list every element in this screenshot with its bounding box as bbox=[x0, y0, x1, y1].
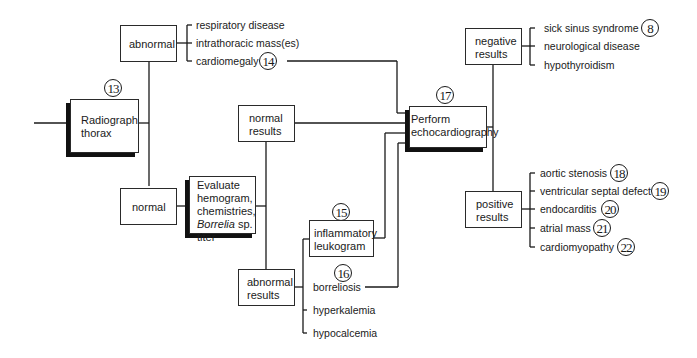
negative-line2: results bbox=[475, 48, 521, 61]
evaluate-line2: hemogram, bbox=[197, 192, 255, 205]
normal-label: normal bbox=[132, 201, 176, 214]
finding-cardiomegaly: cardiomegaly bbox=[196, 55, 258, 67]
finding-endocarditis: endocarditis bbox=[540, 203, 597, 215]
positive-results-box: positive results bbox=[465, 191, 522, 228]
negative-line1: negative bbox=[475, 35, 521, 48]
evaluate-line5: titer bbox=[197, 231, 255, 244]
ref-number-14: 14 bbox=[259, 52, 277, 70]
positive-line2: results bbox=[476, 211, 521, 224]
radiograph-line2: thorax bbox=[81, 127, 138, 140]
evaluate-line3: chemistries, bbox=[197, 205, 255, 218]
positive-line1: positive bbox=[476, 198, 521, 211]
sp-text: sp. bbox=[235, 218, 253, 230]
evaluate-box: Evaluate hemogram, chemistries, Borrelia… bbox=[189, 176, 256, 234]
ref-number-22: 22 bbox=[617, 238, 635, 256]
perform-echocardiography-box: Perform echocardiography bbox=[409, 106, 487, 148]
radiograph-line1: Radiograph bbox=[81, 114, 138, 127]
inflammatory-line1: inflammatory bbox=[314, 227, 373, 240]
finding-ventricular-septal-defect: ventricular septal defect bbox=[540, 185, 651, 197]
finding-atrial-mass: atrial mass bbox=[540, 222, 591, 234]
abnormal-results-line2: results bbox=[247, 289, 294, 302]
radiograph-thorax-box: Radiograph thorax bbox=[70, 99, 139, 153]
finding-sick-sinus-syndrome: sick sinus syndrome bbox=[544, 22, 639, 34]
borrelia-italic: Borrelia bbox=[197, 218, 235, 230]
evaluate-line1: Evaluate bbox=[197, 179, 255, 192]
negative-results-box: negative results bbox=[465, 28, 522, 65]
finding-intrathoracic-mass: intrathoracic mass(es) bbox=[196, 37, 299, 49]
normal-box: normal bbox=[120, 188, 177, 225]
normal-results-box: normal results bbox=[238, 105, 295, 142]
finding-neurological-disease: neurological disease bbox=[544, 40, 640, 52]
finding-hyperkalemia: hyperkalemia bbox=[313, 304, 375, 316]
ref-number-21: 21 bbox=[593, 219, 611, 237]
finding-hypothyroidism: hypothyroidism bbox=[544, 59, 615, 71]
abnormal-box: abnormal bbox=[120, 25, 177, 62]
ref-number-17: 17 bbox=[436, 86, 454, 104]
inflammatory-leukogram-box: inflammatory leukogram bbox=[309, 220, 374, 257]
normal-results-line2: results bbox=[249, 125, 294, 138]
finding-borreliosis: borreliosis bbox=[313, 281, 361, 293]
ref-number-13: 13 bbox=[104, 79, 122, 97]
finding-hypocalcemia: hypocalcemia bbox=[313, 327, 377, 339]
evaluate-line4: Borrelia sp. bbox=[197, 218, 255, 231]
abnormal-results-box: abnormal results bbox=[238, 269, 295, 306]
inflammatory-line2: leukogram bbox=[314, 240, 373, 253]
ref-number-18: 18 bbox=[610, 164, 628, 182]
normal-results-line1: normal bbox=[249, 112, 294, 125]
ref-number-16: 16 bbox=[334, 264, 352, 282]
finding-aortic-stenosis: aortic stenosis bbox=[540, 167, 607, 179]
echo-line1: Perform bbox=[411, 113, 486, 126]
abnormal-results-line1: abnormal bbox=[247, 276, 294, 289]
finding-respiratory-disease: respiratory disease bbox=[196, 19, 285, 31]
ref-number-8: 8 bbox=[641, 19, 659, 37]
echo-line2: echocardiography bbox=[411, 126, 486, 139]
ref-number-15: 15 bbox=[332, 203, 350, 221]
ref-number-19: 19 bbox=[651, 182, 669, 200]
finding-cardiomyopathy: cardiomyopathy bbox=[540, 241, 614, 253]
abnormal-label: abnormal bbox=[129, 38, 176, 51]
ref-number-20: 20 bbox=[601, 200, 619, 218]
